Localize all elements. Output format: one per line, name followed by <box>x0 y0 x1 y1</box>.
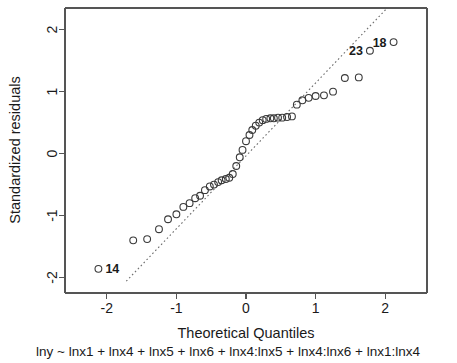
data-point <box>165 216 172 223</box>
x-tick-label: 1 <box>312 300 320 316</box>
data-point <box>156 226 163 233</box>
data-point <box>95 265 102 272</box>
x-tick-label: 0 <box>242 300 250 316</box>
x-tick-label: 2 <box>381 300 389 316</box>
data-point <box>341 75 348 82</box>
y-tick-label: -2 <box>44 271 60 284</box>
qq-reference-line <box>126 9 386 282</box>
data-point <box>239 146 246 153</box>
y-axis-ticks: -2-1012 <box>44 26 65 284</box>
data-point <box>289 113 296 120</box>
data-point <box>186 200 193 207</box>
x-axis-ticks: -2-1012 <box>101 293 390 316</box>
model-formula-subtitle: lny ~ lnx1 + lnx4 + lnx5 + lnx6 + lnx4:l… <box>36 344 420 359</box>
qq-plot-canvas: -2-1012 -2-1012 142318 Theoretical Quant… <box>0 0 457 363</box>
data-point <box>355 74 362 81</box>
y-tick-label: -1 <box>44 209 60 222</box>
y-tick-label: 0 <box>44 149 60 157</box>
data-point <box>305 94 312 101</box>
data-point <box>130 237 137 244</box>
data-point <box>243 138 250 145</box>
data-point <box>233 163 240 170</box>
x-tick-label: -2 <box>101 300 114 316</box>
x-axis-title: Theoretical Quantiles <box>177 325 314 341</box>
y-axis-title: Standardized residuals <box>7 76 23 224</box>
data-point <box>206 183 213 190</box>
data-point <box>144 236 151 243</box>
data-point <box>202 187 209 194</box>
data-point <box>236 154 243 161</box>
data-point <box>173 211 180 218</box>
data-point <box>390 39 397 46</box>
data-point <box>312 93 319 100</box>
qq-plot-figure: -2-1012 -2-1012 142318 Theoretical Quant… <box>0 0 457 363</box>
x-tick-label: -1 <box>170 300 183 316</box>
data-point <box>321 92 328 99</box>
y-tick-label: 2 <box>44 26 60 34</box>
y-tick-label: 1 <box>44 88 60 96</box>
outlier-label: 23 <box>349 44 363 58</box>
data-point <box>330 88 337 95</box>
outlier-label: 14 <box>105 262 119 276</box>
outlier-label: 18 <box>373 36 387 50</box>
data-point <box>180 203 187 210</box>
